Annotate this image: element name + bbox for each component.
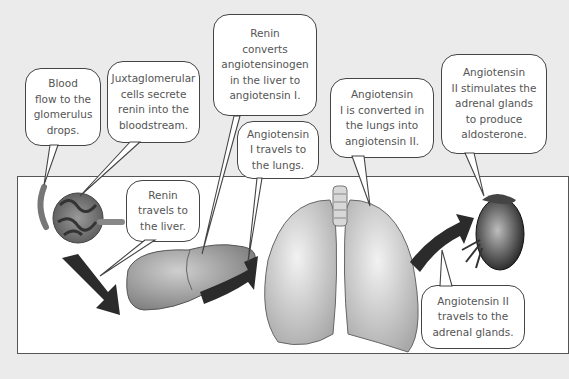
bubble-ang1-lungs: AngiotensinI travels tothe lungs.	[237, 121, 319, 179]
lungs-illustration	[265, 186, 418, 352]
bubble-renin-converts: Reninconvertsangiotensinogenin the liver…	[213, 14, 317, 116]
bubble-juxtaglomerular: Juxtaglomerularcells secreterenin into t…	[107, 61, 200, 143]
bubble-renin-liver: Renintravels tothe liver.	[126, 180, 200, 242]
glomerulus-illustration	[40, 187, 122, 243]
bubble-ang2-stimulates: AngiotensinII stimulates theadrenal glan…	[441, 54, 547, 154]
bubble-ang1-converted: AngiotensinI is converted inthe lungs in…	[330, 78, 434, 158]
adrenal-kidney-illustration	[462, 194, 524, 270]
bubble-ang2-travels: Angiotensin IItravels to theadrenal glan…	[421, 285, 525, 349]
arrow-to-liver-icon	[62, 254, 120, 315]
arrow-to-adrenal-icon	[410, 214, 474, 272]
bubble-blood-flow: Bloodflow to theglomerulusdrops.	[25, 68, 101, 146]
